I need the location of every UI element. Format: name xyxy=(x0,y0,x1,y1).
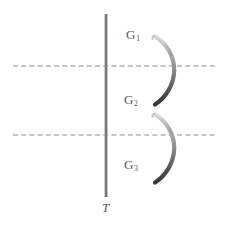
label-g3: G3 xyxy=(124,158,137,171)
label-g2: G2 xyxy=(124,93,137,106)
diagram-canvas: G1 G2 G3 T xyxy=(0,0,229,226)
label-t: T xyxy=(102,201,109,214)
label-g2-subscript: 2 xyxy=(134,99,138,108)
grain-boundary-arc-1 xyxy=(152,35,174,104)
label-g1-subscript: 1 xyxy=(136,34,140,43)
label-g1-base: G xyxy=(126,27,135,42)
grain-boundary-arc-2 xyxy=(152,113,174,182)
label-g3-base: G xyxy=(124,157,133,172)
vertical-boundary-line xyxy=(104,14,107,197)
label-g1: G1 xyxy=(126,28,139,41)
label-g3-subscript: 3 xyxy=(134,164,138,173)
diagram-svg xyxy=(0,0,229,226)
label-g2-base: G xyxy=(124,92,133,107)
